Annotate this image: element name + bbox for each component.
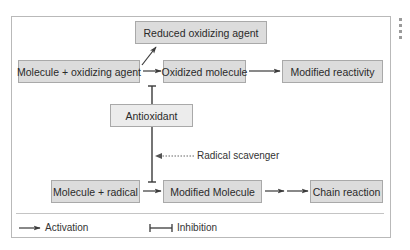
side-mark (399, 30, 402, 33)
diagram-frame (11, 16, 391, 238)
node-molecule-oxidizing-agent: Molecule + oxidizing agent (18, 60, 140, 83)
radical-scavenger-label: Radical scavenger (197, 150, 279, 161)
node-modified-molecule: Modified Molecule (163, 180, 262, 203)
node-chain-reaction: Chain reaction (310, 180, 383, 203)
node-antioxidant: Antioxidant (110, 104, 193, 127)
side-mark (399, 24, 402, 27)
legend-divider (16, 213, 384, 214)
node-molecule-radical: Molecule + radical (51, 180, 140, 203)
legend-inhibition-label: Inhibition (177, 222, 217, 233)
legend-activation-label: Activation (45, 222, 88, 233)
side-mark (399, 18, 402, 21)
side-marks (399, 18, 405, 42)
node-reduced-oxidizing-agent: Reduced oxidizing agent (135, 21, 267, 44)
node-modified-reactivity: Modified reactivity (282, 60, 383, 83)
node-oxidized-molecule: Oxidized molecule (163, 60, 246, 83)
side-mark (399, 36, 402, 39)
